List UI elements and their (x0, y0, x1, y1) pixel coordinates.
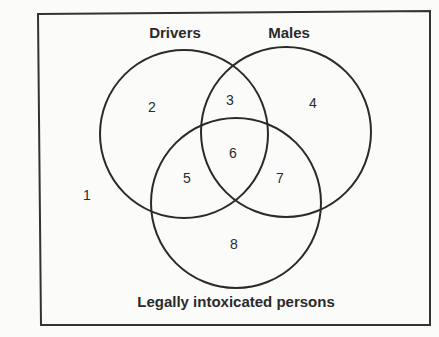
males-circle (201, 47, 371, 217)
drivers-circle (100, 50, 268, 218)
intoxicated-circle (151, 118, 321, 288)
region-5-label: 5 (183, 170, 191, 186)
region-2-label: 2 (148, 99, 156, 115)
region-8-label: 8 (230, 236, 238, 252)
set-label-drivers: Drivers (149, 24, 201, 41)
region-4-label: 4 (309, 95, 317, 111)
universe-frame (38, 11, 430, 325)
region-6-label: 6 (229, 145, 237, 161)
region-7-label: 7 (276, 170, 284, 186)
set-label-males: Males (268, 24, 310, 41)
venn-diagram: Drivers Males Legally intoxicated person… (0, 0, 439, 337)
region-1-label: 1 (83, 187, 91, 203)
set-label-intoxicated: Legally intoxicated persons (137, 293, 335, 310)
region-3-label: 3 (226, 92, 234, 108)
